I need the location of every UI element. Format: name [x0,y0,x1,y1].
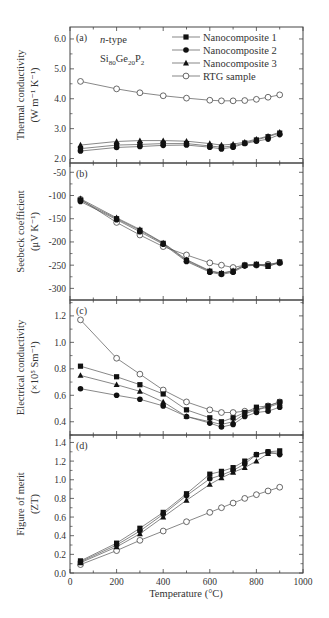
series-line [80,200,279,273]
formula-subscript: 2 [141,59,145,67]
y-tick-label: 1.2 [54,457,66,467]
square-marker-icon [78,198,83,203]
square-marker-icon [114,142,119,147]
open-circle-marker-icon [184,95,190,101]
open-circle-marker-icon [254,96,260,102]
square-marker-icon [231,415,236,420]
y-tick-label: 3.0 [54,124,66,134]
series-rtg-sample [78,317,283,415]
square-marker-icon [219,419,224,424]
y-tick-label: -300 [49,284,67,294]
open-circle-marker-icon [277,92,283,98]
circle-marker-icon [207,476,213,482]
square-marker-icon [254,262,259,267]
x-tick-label: 400 [156,577,171,587]
x-tick-label: 0 [68,577,73,587]
square-marker-icon [184,491,189,496]
y-axis-label-units: (W m⁻¹ K⁻¹) [29,67,41,123]
series-line [80,135,279,151]
x-axis: Temperature (°C) 02004006008001000 [68,577,313,600]
series-line [80,375,279,424]
legend-label: Nanocomposite 1 [203,32,277,43]
series-line [80,81,279,100]
panel-c: 0.40.60.81.01.2(c)Electrical conductivit… [15,300,303,435]
open-circle-marker-icon [78,317,84,323]
legend-label: Nanocomposite 2 [203,45,277,56]
square-marker-icon [137,228,142,233]
open-circle-marker-icon [114,355,120,361]
open-circle-marker-icon [230,98,236,104]
y-tick-label: 6.0 [54,34,66,44]
square-marker-icon [78,558,83,563]
square-marker-icon [114,216,119,221]
legend-label: RTG sample [203,71,256,82]
y-tick-label: 0.0 [54,569,66,579]
formula-element: Si [100,53,109,64]
open-circle-marker-icon [242,98,248,104]
series-line [80,199,279,273]
material-type-text: -type [105,34,127,45]
square-marker-icon [265,403,270,408]
y-axis-label: Figure of merit [15,472,26,536]
y-tick-label: 1.0 [54,338,66,348]
series-rtg-sample [78,196,283,270]
open-circle-marker-icon [219,410,225,416]
square-marker-icon [242,459,247,464]
legend-item: Nanocomposite 3 [172,58,277,69]
open-circle-marker-icon [265,488,271,494]
triangle-marker-icon [160,399,166,405]
panel-label: (c) [76,305,87,317]
legend-item: Nanocomposite 2 [172,45,277,56]
y-tick-label: 1.4 [54,438,66,448]
panel-label: (d) [76,440,88,452]
open-circle-marker-icon [219,262,225,268]
y-tick-label: 0.2 [54,550,66,560]
series-line [80,452,279,562]
y-tick-label: 5.0 [54,64,66,74]
square-marker-icon [231,269,236,274]
square-marker-icon [207,143,212,148]
square-marker-icon [161,241,166,246]
triangle-marker-icon [207,481,213,487]
y-axis-label: Thermal conductivity [15,49,26,140]
y-tick-label: 0.8 [54,364,66,374]
series-nanocomposite-1 [78,448,282,563]
square-marker-icon [219,145,224,150]
square-marker-icon [207,415,212,420]
open-circle-marker-icon [230,500,236,506]
square-marker-icon [242,263,247,268]
square-marker-icon [254,452,259,457]
square-marker-icon [184,407,189,412]
y-tick-label: -250 [49,261,67,271]
square-marker-icon [184,258,189,263]
open-circle-marker-icon [207,260,213,266]
y-tick-label: -150 [49,214,67,224]
square-marker-icon [277,448,282,453]
triangle-marker-icon [183,60,189,66]
square-marker-icon [219,271,224,276]
open-circle-marker-icon [160,93,166,99]
square-marker-icon [265,449,270,454]
circle-marker-icon [78,386,84,392]
square-marker-icon [242,140,247,145]
material-label: n-type [100,34,127,45]
open-circle-marker-icon [265,94,271,100]
x-axis-label: Temperature (°C) [149,588,223,600]
open-circle-marker-icon [242,496,248,502]
triangle-marker-icon [77,372,83,378]
series-nanocomposite-3 [77,450,282,566]
square-marker-icon [277,131,282,136]
y-tick-label: 2.0 [54,154,66,164]
panel-label: (a) [76,32,87,44]
square-marker-icon [114,374,119,379]
y-axis-label-units: (μV K⁻¹) [29,212,41,251]
square-marker-icon [231,143,236,148]
square-marker-icon [207,472,212,477]
square-marker-icon [254,405,259,410]
square-marker-icon [265,134,270,139]
x-tick-label: 600 [203,577,218,587]
open-circle-marker-icon [207,407,213,413]
y-tick-label: 1.0 [54,475,66,485]
open-circle-marker-icon [184,399,190,405]
square-marker-icon [277,399,282,404]
